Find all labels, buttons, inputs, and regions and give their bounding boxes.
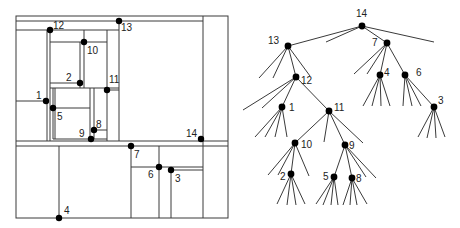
point-label: 5 (57, 111, 63, 122)
tree-edge (418, 107, 434, 137)
point-dot (50, 105, 56, 111)
tree-edge (259, 46, 288, 78)
partition-segments (16, 16, 228, 218)
node-dot (402, 72, 409, 79)
node-label: 14 (356, 8, 368, 19)
point-label: 14 (186, 128, 198, 139)
tree-edge (405, 75, 412, 106)
tree-node-13: 13 (268, 35, 291, 49)
point-label: 6 (148, 169, 154, 180)
point-dot (198, 136, 204, 142)
point-dot (56, 215, 62, 221)
node-label: 13 (268, 35, 280, 46)
diagram-figure: 1234567891011121314 1413712461113109258 (0, 0, 460, 228)
point-label: 7 (134, 149, 140, 160)
tree-node-12: 12 (293, 74, 313, 86)
tree-edge (334, 177, 338, 205)
tree-node-14: 14 (356, 8, 368, 29)
node-label: 1 (289, 102, 295, 113)
point-label: 4 (64, 205, 70, 216)
partition-point-13: 13 (116, 18, 133, 33)
node-label: 12 (301, 75, 313, 86)
node-dot (326, 108, 333, 115)
point-dot (77, 80, 83, 86)
tree-edge (329, 111, 363, 143)
tree-edge (334, 145, 345, 177)
partition-point-7: 7 (128, 143, 140, 160)
partition-point-14: 14 (186, 128, 204, 142)
tree-edge (255, 107, 282, 137)
point-label: 2 (66, 72, 72, 83)
point-label: 9 (79, 128, 85, 139)
tree-panel: 1413712461113109258 (243, 8, 445, 205)
node-label: 4 (384, 67, 390, 78)
tree-node-4: 4 (377, 67, 390, 78)
tree-edge (282, 107, 287, 137)
node-label: 7 (372, 37, 378, 48)
node-dot (431, 104, 438, 111)
node-dot (384, 40, 391, 47)
point-label: 3 (175, 173, 181, 184)
tree-node-6: 6 (402, 67, 422, 78)
node-label: 8 (356, 173, 362, 184)
partition-point-2: 2 (66, 72, 83, 86)
tree-edge (329, 111, 345, 145)
tree-edge (363, 75, 380, 106)
point-dot (43, 98, 49, 104)
point-label: 12 (53, 20, 65, 31)
node-dot (349, 175, 356, 182)
node-dot (342, 142, 349, 149)
partition-point-3: 3 (168, 167, 181, 184)
tree-edge (288, 46, 310, 76)
node-dot (359, 23, 366, 30)
node-label: 2 (280, 171, 286, 182)
tree-edge (265, 107, 282, 137)
node-dot (293, 74, 300, 81)
node-label: 10 (301, 139, 313, 150)
partition-outer-frame (16, 16, 228, 218)
node-label: 3 (438, 95, 444, 106)
rectangle-partition-panel: 1234567891011121314 (16, 16, 228, 221)
node-label: 5 (323, 171, 329, 182)
node-label: 6 (416, 67, 422, 78)
tree-edge (403, 75, 405, 106)
tree-node-11: 11 (326, 102, 345, 114)
partition-points: 1234567891011121314 (36, 18, 204, 221)
node-dot (285, 43, 292, 50)
point-label: 10 (87, 45, 99, 56)
tree-node-3: 3 (431, 95, 444, 110)
partition-point-12: 12 (47, 20, 65, 33)
tree-edge (427, 107, 434, 138)
node-dot (292, 140, 299, 147)
point-dot (104, 87, 110, 93)
node-dot (331, 174, 338, 181)
point-dot (88, 136, 94, 142)
point-label: 8 (96, 119, 102, 130)
tree-edges (243, 26, 445, 205)
node-dot (279, 104, 286, 111)
point-label: 1 (36, 90, 42, 101)
partition-point-6: 6 (148, 164, 162, 180)
partition-point-10: 10 (81, 39, 99, 56)
partition-point-5: 5 (50, 105, 63, 122)
point-label: 13 (121, 22, 133, 33)
tree-edge (288, 26, 362, 46)
tree-edge (372, 75, 380, 106)
node-dot (288, 171, 295, 178)
tree-nodes: 1413712461113109258 (268, 8, 444, 184)
node-label: 9 (349, 140, 355, 151)
node-dot (377, 72, 384, 79)
tree-edge (273, 46, 288, 78)
partition-point-8: 8 (91, 119, 102, 133)
tree-edge (380, 75, 381, 106)
tree-edge (380, 75, 390, 106)
point-dot (156, 164, 162, 170)
point-label: 11 (109, 74, 120, 85)
partition-point-4: 4 (56, 205, 70, 221)
node-label: 11 (334, 102, 345, 113)
tree-edge (387, 43, 405, 75)
point-dot (168, 167, 174, 173)
